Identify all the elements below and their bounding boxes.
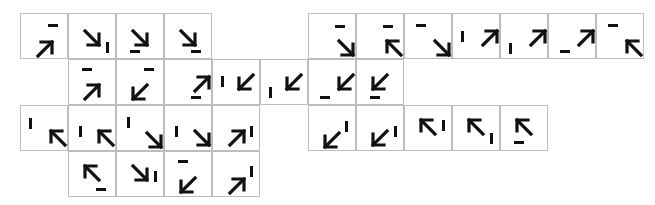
puzzle-tile[interactable] <box>596 13 644 59</box>
puzzle-tile[interactable] <box>212 151 260 197</box>
arrow-south-west-icon <box>287 75 301 89</box>
arrow-north-west-icon <box>469 120 483 134</box>
arrow-south-west-icon <box>373 131 387 145</box>
arrow-south-west-icon <box>325 133 339 147</box>
arrow-north-east-icon <box>38 42 52 56</box>
puzzle-tile[interactable] <box>356 13 404 59</box>
arrow-south-east-icon <box>133 31 147 45</box>
horizontal-bar-icon <box>144 68 154 71</box>
arrow-north-east-icon <box>195 77 209 91</box>
arrow-north-west-icon <box>421 120 435 134</box>
arrow-south-east-icon <box>435 41 449 55</box>
arrow-north-east-icon <box>579 31 593 45</box>
puzzle-tile[interactable] <box>116 59 164 105</box>
vertical-bar-icon <box>250 126 253 137</box>
horizontal-bar-icon <box>82 68 92 71</box>
puzzle-tile[interactable] <box>452 105 500 151</box>
puzzle-tile[interactable] <box>452 13 500 59</box>
arrow-north-east-icon <box>483 31 497 45</box>
arrow-north-east-icon <box>230 179 244 193</box>
vertical-bar-icon <box>269 87 272 98</box>
puzzle-tile[interactable] <box>308 105 356 151</box>
puzzle-tile[interactable] <box>68 151 116 197</box>
puzzle-tile[interactable] <box>212 59 260 105</box>
vertical-bar-icon <box>461 31 464 42</box>
horizontal-bar-icon <box>608 24 618 27</box>
arrow-south-east-icon <box>147 133 161 147</box>
puzzle-tile[interactable] <box>404 105 452 151</box>
puzzle-tile[interactable] <box>356 59 404 105</box>
vertical-bar-icon <box>127 117 130 128</box>
puzzle-tile[interactable] <box>20 13 68 59</box>
vertical-bar-icon <box>154 171 157 182</box>
puzzle-tile[interactable] <box>116 105 164 151</box>
arrow-north-east-icon <box>531 31 545 45</box>
vertical-bar-icon <box>106 42 109 53</box>
puzzle-tile[interactable] <box>500 13 548 59</box>
horizontal-bar-icon <box>335 25 345 28</box>
arrow-south-west-icon <box>239 75 253 89</box>
arrow-north-east-icon <box>85 85 99 99</box>
horizontal-bar-icon <box>130 50 140 53</box>
arrow-south-west-icon <box>181 178 195 192</box>
puzzle-tile[interactable] <box>500 105 548 151</box>
arrow-north-west-icon <box>51 131 65 145</box>
arrow-north-west-icon <box>85 166 99 180</box>
horizontal-bar-icon <box>416 24 426 27</box>
puzzle-tile[interactable] <box>164 59 212 105</box>
vertical-bar-icon <box>345 121 348 132</box>
puzzle-tile[interactable] <box>212 105 260 151</box>
horizontal-bar-icon <box>178 160 188 163</box>
horizontal-bar-icon <box>96 188 106 191</box>
horizontal-bar-icon <box>48 24 58 27</box>
arrow-south-east-icon <box>195 131 209 145</box>
vertical-bar-icon <box>394 126 397 137</box>
arrow-north-west-icon <box>99 131 113 145</box>
arrow-south-east-icon <box>181 31 195 45</box>
vertical-bar-icon <box>250 166 253 177</box>
arrow-south-west-icon <box>373 75 387 89</box>
vertical-bar-icon <box>29 118 32 129</box>
horizontal-bar-icon <box>514 141 524 144</box>
puzzle-tile[interactable] <box>164 13 212 59</box>
puzzle-tile[interactable] <box>116 151 164 197</box>
puzzle-tile[interactable] <box>548 13 596 59</box>
arrow-south-west-icon <box>339 75 353 89</box>
arrow-south-east-icon <box>85 31 99 45</box>
arrow-north-west-icon <box>517 120 531 134</box>
vertical-bar-icon <box>490 133 493 144</box>
vertical-bar-icon <box>221 76 224 87</box>
horizontal-bar-icon <box>191 50 201 53</box>
puzzle-tile[interactable] <box>20 105 68 151</box>
arrow-south-east-icon <box>339 41 353 55</box>
puzzle-tile[interactable] <box>164 105 212 151</box>
horizontal-bar-icon <box>320 96 330 99</box>
puzzle-tile[interactable] <box>68 105 116 151</box>
arrow-south-east-icon <box>133 166 147 180</box>
puzzle-tile[interactable] <box>308 13 356 59</box>
vertical-bar-icon <box>509 43 512 54</box>
puzzle-tile[interactable] <box>116 13 164 59</box>
horizontal-bar-icon <box>370 96 380 99</box>
arrow-north-west-icon <box>627 41 641 55</box>
puzzle-tile[interactable] <box>404 13 452 59</box>
vertical-bar-icon <box>79 126 82 137</box>
puzzle-tile[interactable] <box>260 59 308 105</box>
arrow-north-east-icon <box>230 131 244 145</box>
puzzle-tile[interactable] <box>164 151 212 197</box>
vertical-bar-icon <box>175 126 178 137</box>
puzzle-tile[interactable] <box>68 13 116 59</box>
arrow-south-west-icon <box>133 85 147 99</box>
puzzle-tile[interactable] <box>308 59 356 105</box>
vertical-bar-icon <box>442 120 445 131</box>
puzzle-tile[interactable] <box>68 59 116 105</box>
arrow-north-west-icon <box>387 41 401 55</box>
puzzle-tile[interactable] <box>356 105 404 151</box>
horizontal-bar-icon <box>191 96 201 99</box>
horizontal-bar-icon <box>560 50 570 53</box>
horizontal-bar-icon <box>383 25 393 28</box>
